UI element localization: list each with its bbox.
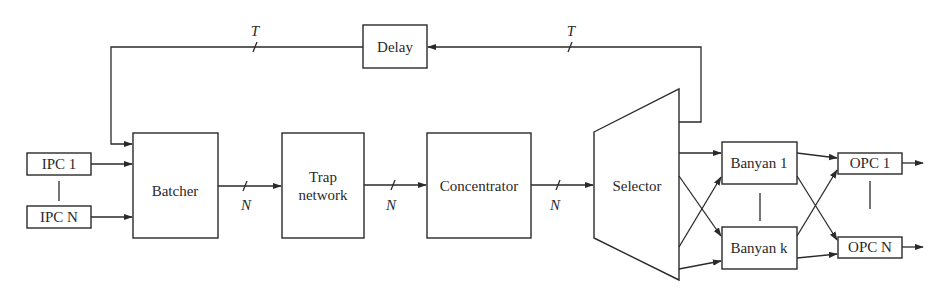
ipc-last-label: IPC N — [40, 209, 78, 225]
batcher-label: Batcher — [152, 183, 199, 199]
opc-last-label: OPC N — [848, 239, 892, 255]
delay-block: Delay — [363, 25, 427, 68]
selector-label: Selector — [612, 178, 661, 194]
bus-label-trap-to-concentrator: N — [385, 197, 397, 213]
concentrator-label: Concentrator — [440, 178, 518, 194]
ipc-last-block: IPC N — [27, 206, 91, 228]
banyan-to-opc-wires — [797, 153, 837, 258]
opc-last-block: OPC N — [838, 237, 902, 258]
batcher-block: Batcher — [133, 133, 218, 238]
ipc-first-block: IPC 1 — [27, 153, 91, 175]
concentrator-block: Concentrator — [427, 133, 531, 238]
bus-label-concentrator-to-selector: N — [549, 197, 561, 213]
bus-label-selector-to-delay: T — [567, 23, 577, 39]
banyan-first-label: Banyan 1 — [730, 155, 787, 171]
trap-label-line2: network — [298, 187, 348, 203]
trap-label-line1: Trap — [309, 169, 337, 185]
opc-first-block: OPC 1 — [838, 153, 902, 174]
banyan-last-block: Banyan k — [722, 227, 797, 269]
switch-architecture-diagram: T T Delay IPC 1 IPC N Batcher N Trap net… — [0, 0, 950, 290]
trap-network-block: Trap network — [282, 133, 364, 238]
selector-to-banyan-wires — [679, 153, 721, 269]
opc-first-label: OPC 1 — [850, 155, 890, 171]
banyan-first-block: Banyan 1 — [722, 142, 797, 184]
delay-label: Delay — [377, 39, 413, 55]
banyan-last-label: Banyan k — [730, 240, 788, 256]
bus-label-delay-to-batcher: T — [251, 23, 261, 39]
ipc-first-label: IPC 1 — [42, 156, 77, 172]
selector-block: Selector — [594, 89, 679, 280]
bus-label-batcher-to-trap: N — [240, 197, 252, 213]
